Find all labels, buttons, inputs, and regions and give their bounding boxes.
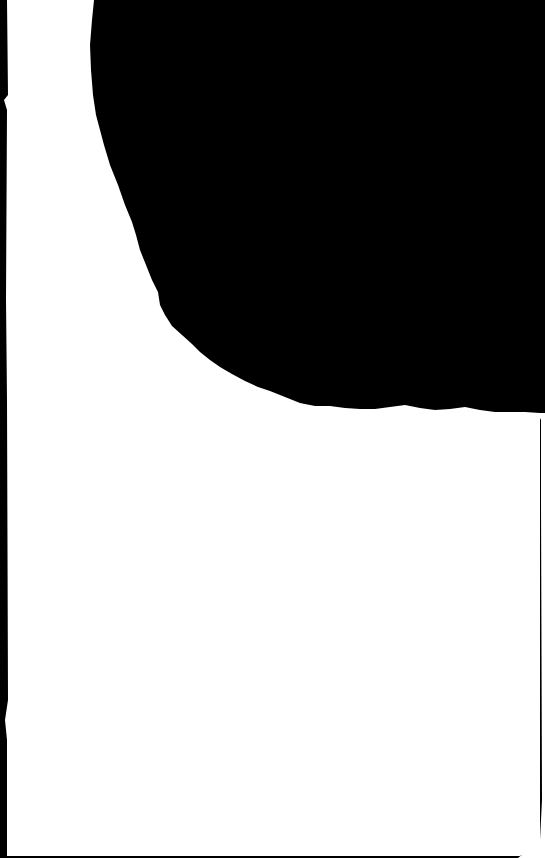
- torn-paper-image: [0, 0, 545, 858]
